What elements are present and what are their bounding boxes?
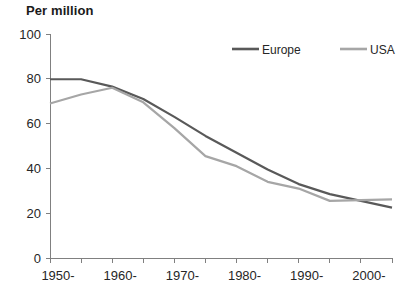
series-line-europe [50,79,392,207]
legend-label-usa: USA [370,43,395,57]
chart-container: Per million 020406080100 1950-1960-1970-… [0,0,407,301]
x-tick-label: 1950- [41,268,74,283]
legend-label-europe: Europe [262,43,301,57]
chart-legend: EuropeUSA [232,43,395,57]
x-tick-label: 2000- [352,268,385,283]
y-tick-label: 60 [27,116,41,131]
x-tick-label: 1980- [228,268,261,283]
data-series-group [50,79,392,207]
y-tick-label: 100 [19,27,41,42]
y-axis: 020406080100 [19,27,50,266]
x-tick-label: 1960- [104,268,137,283]
y-tick-label: 20 [27,206,41,221]
x-axis: 1950-1960-1970-1980-1990-2000- [41,258,392,283]
y-tick-label: 80 [27,71,41,86]
y-tick-label: 0 [34,251,41,266]
y-tick-label: 40 [27,161,41,176]
x-tick-label: 1970- [166,268,199,283]
x-tick-label: 1990- [290,268,323,283]
line-chart-plot: 020406080100 1950-1960-1970-1980-1990-20… [0,0,407,301]
